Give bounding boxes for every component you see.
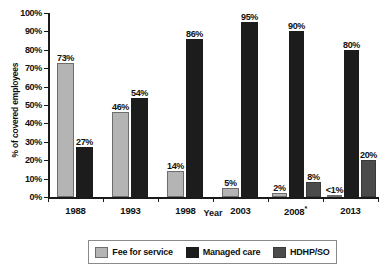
y-tick-label-40: 40% [25,118,42,128]
bar-label-2013-managed: 80% [343,40,360,50]
bar-1988-managed-care: 27% [76,147,93,197]
bar-label-1993-fee: 46% [112,102,129,112]
bar-2013-managed-care: 80% [344,50,359,197]
bar-2008-managed-care: 90% [289,31,304,197]
legend-item-fee-for-service: Fee for service [95,247,173,258]
legend-label-managed-care: Managed care [203,247,261,257]
bar-label-1998-fee: 14% [167,161,184,171]
bar-2013-hdhp-so: 20% [361,160,376,197]
bar-label-2013-fee: <1% [326,185,343,195]
x-axis-title: Year [48,208,378,218]
fee-for-service-swatch-icon [95,247,108,258]
y-tick-label-10: 10% [25,174,42,184]
bar-label-2008-managed: 90% [288,21,305,31]
chart-legend: Fee for service Managed care HDHP/SO [88,240,337,264]
y-tick-label-20: 20% [25,155,42,165]
bar-2008-hdhp-so: 8% [306,182,321,197]
bar-label-2003-managed: 95% [241,12,258,22]
legend-item-managed-care: Managed care [186,247,261,258]
hdhp-so-swatch-icon [273,247,286,258]
y-tick-label-50: 50% [25,100,42,110]
managed-care-swatch-icon [186,247,199,258]
y-tick-70 [44,68,48,69]
bar-label-2003-fee: 5% [224,178,236,188]
bar-1993-fee-for-service: 46% [112,112,129,197]
y-tick-40 [44,123,48,124]
y-tick-100 [44,13,48,14]
bar-label-1988-managed: 27% [76,137,93,147]
legend-item-hdhp-so: HDHP/SO [273,247,330,258]
y-axis-title: % of covered employees [10,40,20,180]
y-tick-label-70: 70% [25,63,42,73]
y-tick-label-30: 30% [25,137,42,147]
bar-1993-managed-care: 54% [131,98,148,197]
x-tick-6 [378,197,379,202]
y-tick-80 [44,50,48,51]
bar-2003-fee-for-service: 5% [222,188,239,197]
y-tick-label-80: 80% [25,45,42,55]
bar-label-2008-fee: 2% [273,183,285,193]
y-tick-label-60: 60% [25,82,42,92]
plot-area: 100% 90% 80% 70% 60% 50% 40% 30% 20% 10%… [48,13,378,197]
legend-label-fee-for-service: Fee for service [112,247,173,257]
bar-2008-fee-for-service: 2% [272,193,287,197]
y-tick-20 [44,160,48,161]
x-tick-5 [323,197,324,202]
x-tick-4 [268,197,269,202]
x-tick-3 [213,197,214,202]
bar-label-1988-fee: 73% [57,53,74,63]
bar-chart: % of covered employees 100% 90% 80% 70% … [0,0,385,270]
y-tick-30 [44,142,48,143]
bar-label-1998-managed: 86% [186,29,203,39]
x-tick-1 [103,197,104,202]
y-axis-line [48,13,50,197]
y-tick-label-0: 0% [30,192,42,202]
bar-label-1993-managed: 54% [131,88,148,98]
y-tick-90 [44,31,48,32]
x-tick-0 [48,197,49,202]
bar-1998-fee-for-service: 14% [167,171,184,197]
y-tick-50 [44,105,48,106]
y-tick-label-90: 90% [25,26,42,36]
y-tick-10 [44,179,48,180]
bar-2003-managed-care: 95% [241,22,258,197]
x-tick-2 [158,197,159,202]
y-tick-label-100: 100% [20,8,42,18]
bar-label-2008-hdhp: 8% [307,172,319,182]
bar-1998-managed-care: 86% [186,39,203,197]
bar-1988-fee-for-service: 73% [57,63,74,197]
bar-2013-fee-for-service: <1% [327,195,342,197]
y-tick-60 [44,87,48,88]
legend-label-hdhp-so: HDHP/SO [290,247,330,257]
bar-label-2013-hdhp: 20% [360,150,377,160]
